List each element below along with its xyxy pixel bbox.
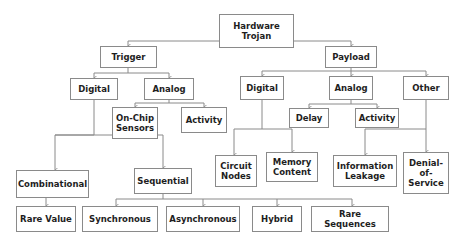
node-sequential: Sequential — [134, 168, 192, 194]
node-trigger-analog: Analog — [144, 78, 194, 100]
node-payload-other: Other — [403, 76, 449, 100]
node-asynchronous: Asynchronous — [166, 206, 240, 232]
node-combinational: Combinational — [16, 170, 89, 198]
node-rare-sequences: Rare Sequences — [311, 206, 389, 232]
node-trigger: Trigger — [100, 46, 157, 68]
node-payload: Payload — [325, 46, 377, 68]
node-payload-digital: Digital — [240, 76, 284, 100]
node-payload-analog: Analog — [329, 76, 373, 100]
node-denial-of-service: Denial- of- Service — [403, 152, 449, 194]
node-on-chip-sensors: On-Chip Sensors — [112, 107, 158, 139]
node-trigger-activity: Activity — [181, 107, 227, 133]
node-hardware-trojan: Hardware Trojan — [219, 14, 294, 48]
node-synchronous: Synchronous — [82, 206, 158, 232]
node-delay: Delay — [289, 108, 329, 128]
node-memory-content: Memory Content — [266, 152, 318, 182]
node-trigger-digital: Digital — [70, 78, 118, 100]
node-rare-value: Rare Value — [16, 206, 76, 232]
node-payload-activity: Activity — [355, 108, 399, 128]
node-circuit-nodes: Circuit Nodes — [215, 155, 257, 187]
node-hybrid: Hybrid — [252, 206, 302, 232]
node-information-leakage: Information Leakage — [333, 155, 397, 187]
hardware-trojan-taxonomy-diagram: Hardware Trojan Trigger Payload Digital … — [0, 0, 464, 246]
